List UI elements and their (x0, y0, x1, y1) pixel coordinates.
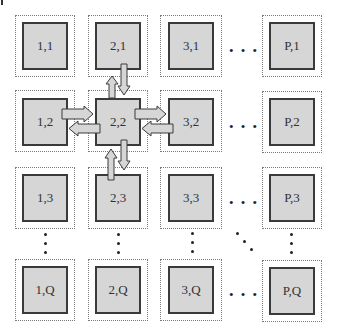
arrow-down-icon (118, 140, 130, 170)
arrow-right-icon (62, 106, 93, 122)
arrow-right-icon (135, 106, 166, 122)
arrow-left-icon (69, 121, 100, 136)
arrow-up-icon (106, 76, 118, 98)
arrow-left-icon (142, 121, 173, 136)
arrow-up-icon (105, 149, 117, 180)
communication-arrows (0, 0, 337, 335)
arrow-down-icon (118, 64, 130, 95)
